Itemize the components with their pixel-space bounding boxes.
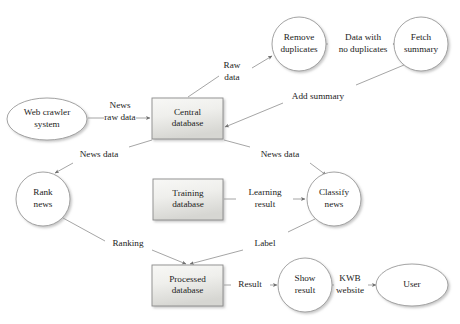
edge-label-show-result-to-user: KWBwebsite <box>336 274 364 295</box>
edge-label-central-to-classify-news: News data <box>261 149 300 159</box>
edge-label-crawler-to-central: Newsraw data <box>104 101 135 122</box>
diagram-canvas: Newsraw dataRawdataData withno duplicate… <box>0 0 460 324</box>
edge-classify-news-to-processed <box>288 219 315 232</box>
edge-fetch-summary-to-central <box>356 65 404 85</box>
dataflow-diagram: Newsraw dataRawdataData withno duplicate… <box>0 0 460 324</box>
labels-layer: Newsraw dataRawdataData withno duplicate… <box>24 33 439 296</box>
edge-central-to-classify-news <box>224 140 250 147</box>
edge-central-to-classify-news <box>310 163 326 175</box>
edge-label-training-to-classify-news: Learningresult <box>248 188 282 209</box>
edge-fetch-summary-to-central <box>225 103 283 127</box>
edge-central-to-rank-news <box>129 140 152 147</box>
edge-rank-news-to-processed <box>63 218 105 241</box>
edge-label-classify-news-to-processed: Label <box>255 238 276 248</box>
edge-label-central-to-rank-news: News data <box>80 149 119 159</box>
edge-label-processed-to-show-result: Result <box>238 279 262 289</box>
edge-label-remove-duplicates-to-fetch-summary: Data withno duplicates <box>339 33 388 54</box>
node-label-processed-database: Processeddatabase <box>169 274 206 295</box>
edge-label-fetch-summary-to-central: Add summary <box>292 91 345 101</box>
node-label-central-database: Centraldatabase <box>172 107 204 128</box>
edge-label-rank-news-to-processed: Ranking <box>112 238 144 248</box>
node-label-rank-news: Ranknews <box>33 188 53 209</box>
edge-label-central-to-remove-duplicates: Rawdata <box>224 61 241 82</box>
edge-central-to-remove-duplicates <box>252 56 272 68</box>
node-label-training-database: Trainingdatabase <box>172 188 204 209</box>
edge-classify-news-to-processed <box>190 250 243 264</box>
node-label-user: User <box>403 279 420 289</box>
node-label-remove-duplicates: Removeduplicates <box>280 33 318 54</box>
edge-rank-news-to-processed <box>152 250 186 264</box>
edge-central-to-rank-news <box>55 163 73 173</box>
edge-central-to-remove-duplicates <box>188 76 219 97</box>
node-label-show-result: Showresult <box>295 274 316 295</box>
